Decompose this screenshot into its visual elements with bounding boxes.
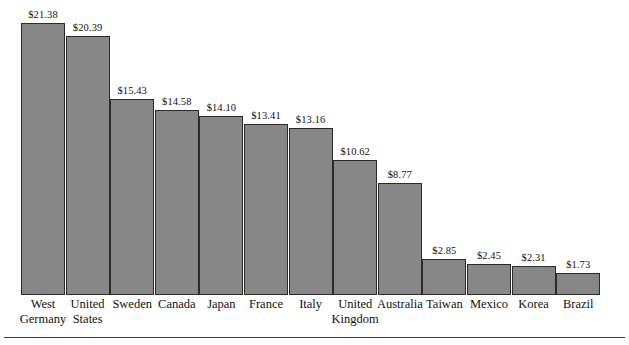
bar-group: $1.73 [556, 273, 600, 295]
bar [110, 99, 154, 295]
bar [244, 124, 288, 295]
bar-chart: $21.38$20.39$15.43$14.58$14.10$13.41$13.… [0, 0, 629, 345]
category-label-line: States [57, 312, 119, 327]
bar-value-label: $14.58 [162, 96, 191, 108]
bottom-rule-divider [4, 337, 625, 338]
category-axis: WestGermanyUnitedStatesSwedenCanadaJapan… [0, 295, 629, 337]
bar-group: $13.41 [244, 124, 288, 295]
category-label-line: Kingdom [324, 312, 386, 327]
bar-group: $21.38 [21, 23, 65, 295]
bar-value-label: $2.31 [522, 252, 546, 264]
bar [155, 110, 199, 295]
bar [21, 23, 65, 295]
bar-group: $2.85 [422, 259, 466, 295]
bar-value-label: $13.41 [251, 110, 280, 122]
bar [199, 116, 243, 295]
bar-value-label: $2.45 [477, 250, 501, 262]
bar [378, 183, 422, 295]
bar-value-label: $10.62 [340, 146, 369, 158]
bar-value-label: $8.77 [388, 169, 412, 181]
bar [422, 259, 466, 295]
bar-value-label: $20.39 [73, 22, 102, 34]
bar-value-label: $13.16 [296, 114, 325, 126]
category-label: Brazil [547, 297, 609, 312]
bar [512, 266, 556, 295]
bar [467, 264, 511, 295]
bar-group: $8.77 [378, 183, 422, 295]
bar-group: $2.31 [512, 266, 556, 295]
bar-group: $10.62 [333, 160, 377, 295]
bar-value-label: $2.85 [432, 245, 456, 257]
bar-group: $15.43 [110, 99, 154, 295]
bar-value-label: $1.73 [566, 259, 590, 271]
category-label-line: Brazil [547, 297, 609, 312]
bar-group: $2.45 [467, 264, 511, 295]
bar-value-label: $15.43 [117, 85, 146, 97]
bar [66, 36, 110, 295]
bar [333, 160, 377, 295]
bar-group: $13.16 [289, 128, 333, 295]
bar-value-label: $14.10 [207, 102, 236, 114]
bar-group: $14.10 [199, 116, 243, 295]
bar [556, 273, 600, 295]
bar-group: $20.39 [66, 36, 110, 295]
bar-value-label: $21.38 [28, 9, 57, 21]
bar [289, 128, 333, 295]
plot-area: $21.38$20.39$15.43$14.58$14.10$13.41$13.… [0, 0, 629, 295]
bar-group: $14.58 [155, 110, 199, 295]
